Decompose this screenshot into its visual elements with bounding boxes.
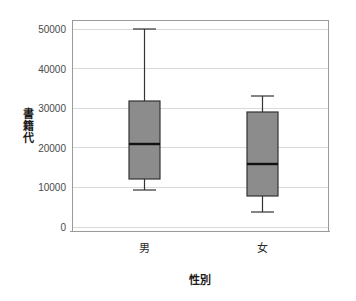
box-male — [129, 101, 160, 179]
y-tick-label-10000: 10000 — [38, 182, 66, 193]
boxplot-chart: 50000 40000 30000 20000 10000 0 書 籍 代 — [0, 0, 356, 301]
y-axis-title-char-1: 書 — [23, 107, 34, 121]
x-tick-label-male: 男 — [139, 242, 150, 255]
x-axis-title: 性別 — [189, 273, 211, 287]
y-tick-labels: 50000 40000 30000 20000 10000 0 — [38, 24, 66, 233]
x-tick-label-female: 女 — [257, 241, 268, 255]
y-tick-label-0: 0 — [60, 222, 66, 233]
plot-background — [72, 20, 328, 227]
boxplot-group-female — [247, 96, 278, 212]
y-tick-label-50000: 50000 — [38, 24, 66, 35]
box-female — [247, 112, 278, 196]
chart-canvas: 50000 40000 30000 20000 10000 0 書 籍 代 — [0, 0, 356, 301]
y-axis-title-char-2: 籍 — [23, 119, 34, 133]
y-tick-label-20000: 20000 — [38, 143, 66, 154]
y-tick-label-40000: 40000 — [38, 64, 66, 75]
x-tick-labels: 男 女 — [139, 241, 268, 255]
y-tick-label-30000: 30000 — [38, 103, 66, 114]
y-axis-title: 書 籍 代 — [22, 107, 34, 145]
y-axis-title-char-3: 代 — [22, 131, 34, 145]
